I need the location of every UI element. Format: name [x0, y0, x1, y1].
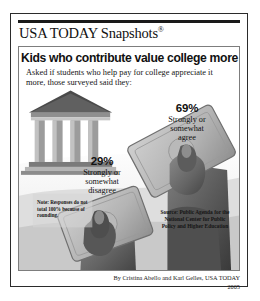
page-title: Kids who contribute value college more: [19, 47, 239, 65]
byline-credit: By Cristina Abello and Karl Gelles, USA …: [18, 273, 240, 282]
masthead-brand: USA TODAY Snapshots: [19, 25, 158, 41]
byline-year: 2005: [18, 282, 240, 291]
masthead: USA TODAY Snapshots®: [18, 20, 240, 45]
subtitle: Asked if students who help pay for colle…: [19, 65, 239, 88]
callout-agree: 69% Strongly or somewhat agree: [150, 102, 224, 143]
rounding-note: Note: Responses do not total 100% becaus…: [37, 199, 89, 219]
chart-box: Kids who contribute value college more A…: [18, 46, 240, 271]
agree-label-line3: agree: [150, 133, 224, 142]
disagree-percent: 29%: [65, 155, 139, 168]
agree-percent: 69%: [150, 102, 224, 115]
masthead-title: USA TODAY Snapshots®: [18, 23, 240, 45]
agree-label-line2: somewhat: [150, 124, 224, 133]
disagree-label-line2: somewhat: [65, 177, 139, 186]
agree-label-line1: Strongly or: [150, 115, 224, 124]
source-credit: Source: Public Agenda for the National C…: [159, 209, 231, 230]
outer-frame: USA TODAY Snapshots®: [10, 13, 248, 287]
disagree-label-line1: Strongly or: [65, 168, 139, 177]
registered-mark-icon: ®: [158, 25, 164, 34]
snapshot-page: USA TODAY Snapshots®: [0, 0, 260, 301]
disagree-label-line3: disagree: [65, 186, 139, 195]
callout-disagree: 29% Strongly or somewhat disagree: [65, 155, 139, 196]
byline: By Cristina Abello and Karl Gelles, USA …: [18, 273, 241, 292]
